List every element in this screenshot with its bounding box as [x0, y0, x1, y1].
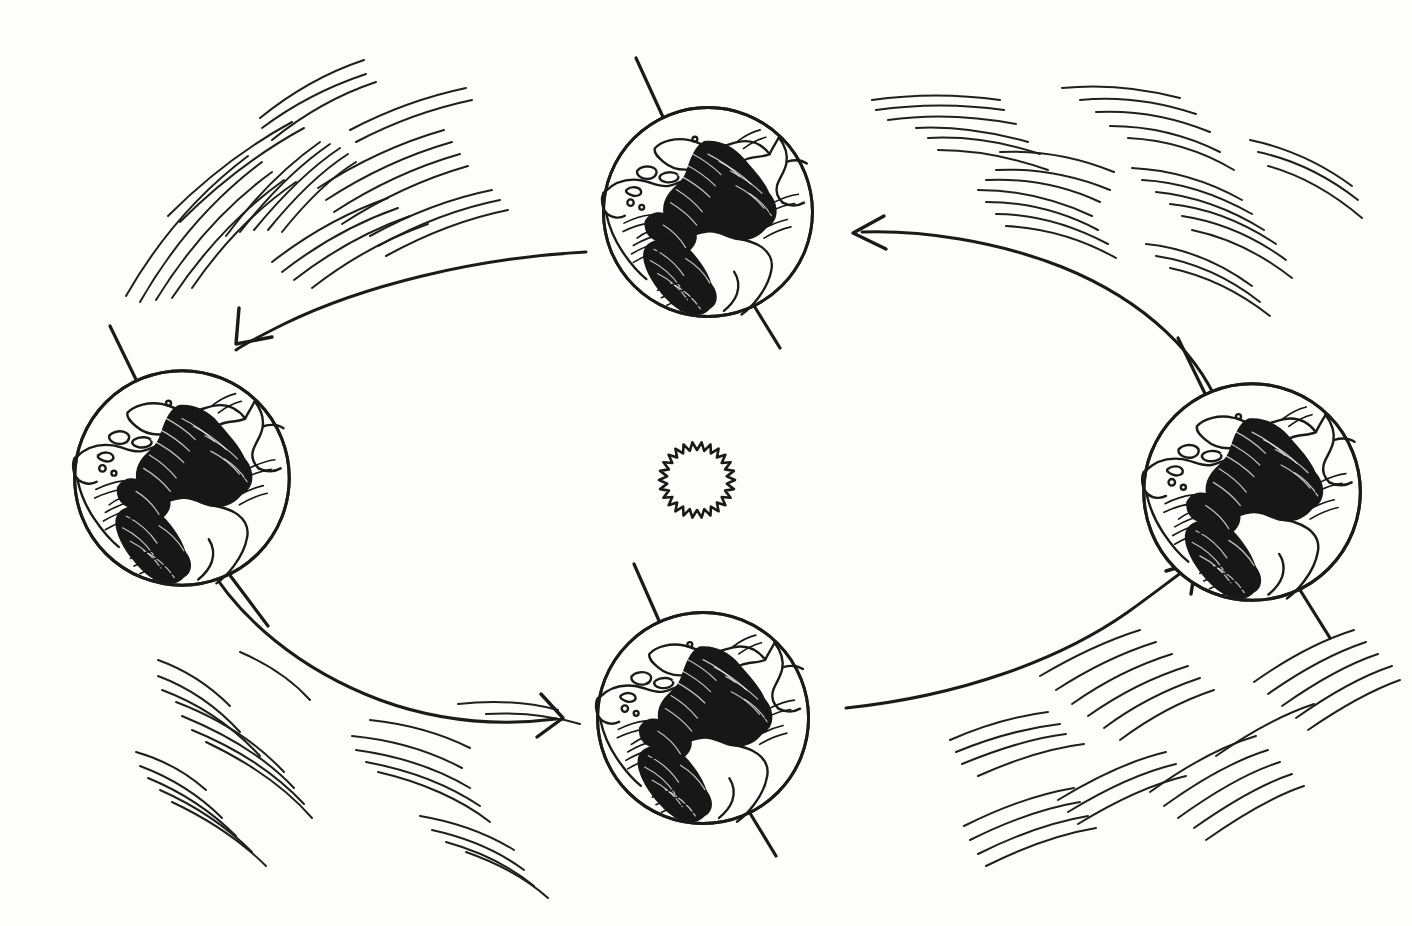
sun[interactable] [659, 442, 735, 517]
orbit-diagram-canvas: Earth's Orbit Around the Sun [0, 0, 1412, 926]
sketch-decoration-bottom-right [950, 630, 1400, 866]
earth-top[interactable] [602, 58, 813, 348]
sketch-decoration-top-right [872, 86, 1362, 316]
sketch-decoration-bottom-left [136, 652, 580, 898]
earth-right[interactable] [1142, 338, 1360, 638]
earth-left[interactable] [73, 326, 289, 626]
diagram-svg [0, 0, 1412, 926]
earth-bottom[interactable] [596, 564, 809, 856]
sketch-decoration-top-left [126, 60, 508, 302]
